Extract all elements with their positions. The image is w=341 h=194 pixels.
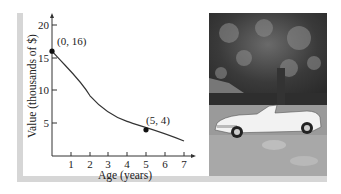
y-tick-20: 20 xyxy=(38,19,50,31)
y-axis-label: Value (thousands of $) xyxy=(26,34,39,138)
y-tick-10: 10 xyxy=(38,84,50,96)
y-tick-5: 5 xyxy=(44,117,50,129)
point-0-16 xyxy=(49,49,54,54)
y-tick-15: 15 xyxy=(38,52,50,64)
x-axis-label: Age (years) xyxy=(98,169,152,182)
value-curve xyxy=(52,51,184,141)
x-axis-arrow-icon xyxy=(191,154,196,158)
y-axis-arrow-icon xyxy=(50,13,54,18)
car-photo xyxy=(209,13,327,176)
point-label-0-16: (0, 16) xyxy=(57,35,87,48)
x-tick-1: 1 xyxy=(68,158,74,170)
x-tick-6: 6 xyxy=(162,158,168,170)
x-tick-7: 7 xyxy=(181,158,187,170)
point-5-4 xyxy=(143,127,148,132)
x-tick-2: 2 xyxy=(87,158,93,170)
point-label-5-4: (5, 4) xyxy=(146,114,170,127)
